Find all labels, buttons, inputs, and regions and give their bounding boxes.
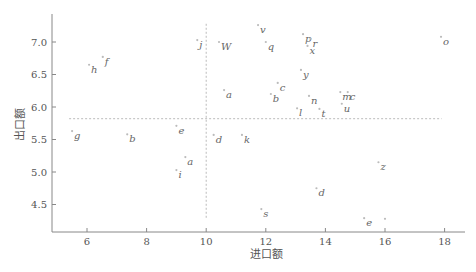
point-label: k bbox=[244, 134, 250, 145]
point-marker bbox=[260, 208, 262, 210]
data-point: e bbox=[175, 125, 184, 136]
point-marker bbox=[377, 161, 379, 163]
point-label: c bbox=[280, 82, 286, 93]
point-label: e bbox=[178, 125, 184, 136]
point-label: a bbox=[187, 156, 193, 167]
point-label: i bbox=[178, 169, 181, 180]
data-point: z bbox=[377, 161, 386, 172]
data-point: a bbox=[184, 156, 193, 167]
point-label: g bbox=[74, 130, 80, 141]
data-point: i bbox=[175, 169, 181, 180]
point-marker bbox=[296, 107, 298, 109]
point-label: l bbox=[299, 107, 302, 118]
point-label: z bbox=[379, 161, 386, 172]
data-point: u bbox=[341, 103, 351, 114]
x-tick-label: 18 bbox=[438, 236, 451, 247]
axes bbox=[52, 14, 465, 232]
point-label: e bbox=[366, 217, 372, 228]
y-tick-label: 4.5 bbox=[31, 199, 47, 210]
point-marker bbox=[71, 130, 73, 132]
point-marker bbox=[318, 108, 320, 110]
data-point: a bbox=[223, 89, 232, 100]
data-point: k bbox=[241, 134, 250, 145]
point-marker bbox=[175, 125, 177, 127]
point-marker bbox=[241, 134, 243, 136]
data-point: y bbox=[300, 69, 309, 80]
y-tick-label: 5.0 bbox=[31, 167, 47, 178]
point-marker bbox=[440, 36, 442, 38]
data-point: d bbox=[315, 187, 325, 198]
data-point: l bbox=[296, 107, 302, 118]
data-point: x bbox=[306, 45, 315, 56]
data-point: q bbox=[265, 41, 275, 52]
y-axis-title: 出口额 bbox=[13, 108, 27, 141]
point-marker bbox=[102, 56, 104, 58]
point-marker bbox=[88, 64, 90, 66]
data-point: v bbox=[257, 24, 266, 35]
point-label: q bbox=[268, 41, 274, 52]
y-tick-label: 6.0 bbox=[31, 102, 47, 113]
data-point: b bbox=[126, 133, 136, 144]
point-marker bbox=[126, 133, 128, 135]
y-tick-label: 5.5 bbox=[31, 134, 47, 145]
point-label: y bbox=[302, 69, 309, 80]
point-label: f bbox=[104, 56, 111, 67]
point-marker bbox=[277, 82, 279, 84]
point-label: d bbox=[216, 134, 222, 145]
point-marker bbox=[363, 217, 365, 219]
data-point: d bbox=[213, 134, 223, 145]
point-marker bbox=[339, 91, 341, 93]
data-point bbox=[384, 218, 386, 220]
point-label: h bbox=[91, 64, 97, 75]
point-marker bbox=[184, 156, 186, 158]
x-tick-label: 10 bbox=[200, 236, 213, 247]
point-label: c bbox=[350, 91, 356, 102]
point-label: b bbox=[273, 93, 279, 104]
data-point: s bbox=[260, 208, 268, 219]
data-point: j bbox=[196, 39, 202, 50]
point-label: t bbox=[321, 108, 326, 119]
data-point: n bbox=[308, 95, 318, 106]
data-points: hfjWvqprxoycabnmcultgbedkaizdse bbox=[71, 24, 449, 228]
point-marker bbox=[175, 169, 177, 171]
data-point: b bbox=[270, 93, 280, 104]
point-label: s bbox=[263, 208, 268, 219]
x-tick-label: 12 bbox=[259, 236, 272, 247]
point-marker bbox=[257, 24, 259, 26]
data-point: W bbox=[218, 41, 232, 52]
y-tick-label: 6.5 bbox=[31, 69, 47, 80]
point-label: W bbox=[221, 41, 232, 52]
scatter-chart: 681012141618 4.55.05.56.06.57.0 hfjWvqpr… bbox=[0, 0, 476, 272]
data-point: t bbox=[318, 108, 326, 119]
reference-lines bbox=[69, 24, 442, 219]
point-marker bbox=[300, 69, 302, 71]
x-tick-label: 14 bbox=[319, 236, 332, 247]
point-marker bbox=[306, 45, 308, 47]
point-label: b bbox=[129, 133, 135, 144]
point-marker bbox=[265, 41, 267, 43]
point-label: u bbox=[344, 103, 350, 114]
point-marker bbox=[384, 218, 386, 220]
point-label: a bbox=[226, 89, 232, 100]
point-marker bbox=[270, 93, 272, 95]
point-marker bbox=[302, 33, 304, 35]
point-marker bbox=[308, 95, 310, 97]
point-label: v bbox=[260, 24, 266, 35]
x-axis-title: 进口额 bbox=[250, 248, 283, 261]
data-point: h bbox=[88, 64, 98, 75]
x-tick-label: 8 bbox=[143, 236, 149, 247]
point-marker bbox=[223, 89, 225, 91]
point-marker bbox=[196, 39, 198, 41]
data-point: g bbox=[71, 130, 81, 141]
data-point: e bbox=[363, 217, 372, 228]
y-tick-label: 7.0 bbox=[31, 37, 47, 48]
point-marker bbox=[341, 103, 343, 105]
x-tick-label: 16 bbox=[379, 236, 392, 247]
x-tick-label: 6 bbox=[84, 236, 90, 247]
point-marker bbox=[315, 187, 317, 189]
point-marker bbox=[347, 91, 349, 93]
data-point: c bbox=[277, 82, 286, 93]
point-label: n bbox=[311, 95, 317, 106]
x-ticks: 681012141618 bbox=[84, 228, 451, 247]
point-label: d bbox=[318, 187, 324, 198]
